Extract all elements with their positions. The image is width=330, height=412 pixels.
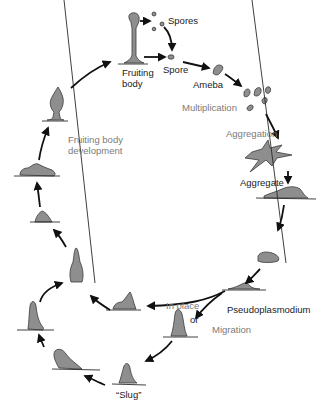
small-mound-shape (30, 211, 60, 222)
life-cycle-diagram (0, 0, 330, 412)
label-fruiting-body-line1: Fruiting (122, 67, 154, 78)
ameba-shape (213, 65, 223, 75)
settling-slug-shape (106, 292, 141, 310)
rising-slug-shape (17, 302, 54, 331)
crawling-slug-shape (52, 349, 100, 370)
wide-mound-shape (14, 164, 60, 176)
label-fruiting-dev-line2: development (68, 145, 122, 156)
label-multiplication: Multiplication (182, 102, 237, 113)
label-or: or (190, 314, 198, 325)
label-slug: “Slug” (116, 389, 141, 400)
mound-shape (256, 187, 316, 199)
pseudoplasmodium-shape (222, 283, 266, 290)
label-aggregate: Aggregate (240, 177, 284, 188)
label-in-place: In place (166, 300, 199, 311)
multiplying-amebae-shape (244, 87, 271, 111)
label-pseudoplasmodium: Pseudoplasmodium (227, 304, 310, 315)
label-migration: Migration (212, 324, 251, 335)
aggregate-shape (245, 140, 292, 172)
label-spores: Spores (168, 15, 198, 26)
early-fruiting-body-shape (42, 87, 68, 121)
label-fruiting-body-line2: body (122, 78, 143, 89)
slug-shape (112, 364, 146, 385)
label-aggregation: Aggregation (226, 128, 277, 139)
label-spore: Spore (163, 64, 188, 75)
label-ameba: Ameba (193, 79, 223, 90)
label-fruiting-dev-line1: Fruiting body (68, 134, 123, 145)
